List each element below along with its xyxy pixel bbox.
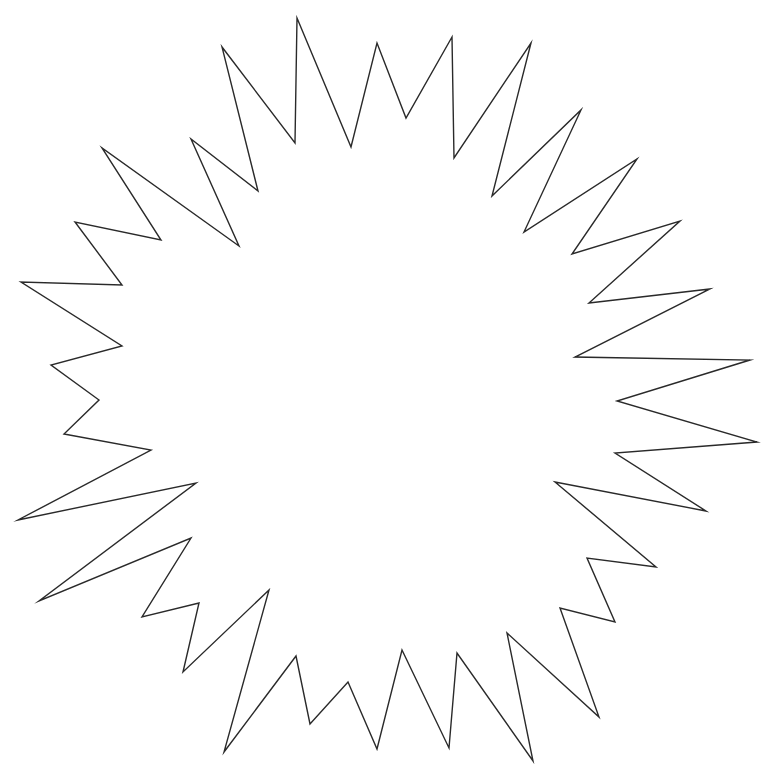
starburst-drawing: [0, 0, 774, 774]
drawing-canvas: [0, 0, 774, 774]
starburst-outline: [18, 18, 757, 761]
